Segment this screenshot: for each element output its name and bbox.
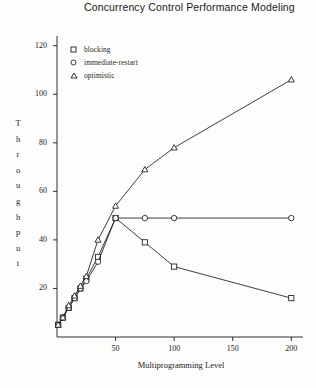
series-line xyxy=(58,218,291,325)
triangle-marker xyxy=(142,166,148,171)
x-tick-label: 200 xyxy=(276,344,306,353)
x-tick-label: 50 xyxy=(101,344,131,353)
triangle-marker xyxy=(288,77,294,82)
series-line xyxy=(58,80,291,325)
square-marker xyxy=(142,240,147,245)
y-tick-label: 80 xyxy=(21,138,47,147)
y-tick-label: 20 xyxy=(21,283,47,292)
series-immediate-restart xyxy=(55,215,294,327)
x-tick-label: 150 xyxy=(218,344,248,353)
axis-ticks xyxy=(53,46,291,341)
circle-marker xyxy=(142,215,147,220)
data-series-layer xyxy=(55,77,294,328)
square-marker xyxy=(172,264,177,269)
circle-marker xyxy=(171,215,176,220)
y-tick-label: 100 xyxy=(21,89,47,98)
circle-marker xyxy=(289,215,294,220)
series-blocking xyxy=(56,215,294,327)
series-line xyxy=(58,218,291,325)
triangle-marker xyxy=(95,237,101,242)
circle-marker xyxy=(113,215,118,220)
x-tick-label: 100 xyxy=(159,344,189,353)
y-tick-label: 40 xyxy=(21,235,47,244)
circle-marker xyxy=(95,259,100,264)
chart-figure: Concurrency Control Performance Modeling… xyxy=(0,0,316,388)
plot-area xyxy=(0,0,316,388)
y-tick-label: 60 xyxy=(21,186,47,195)
y-tick-label: 120 xyxy=(21,41,47,50)
axis-lines xyxy=(57,36,303,337)
triangle-marker xyxy=(171,145,177,150)
square-marker xyxy=(289,296,294,301)
